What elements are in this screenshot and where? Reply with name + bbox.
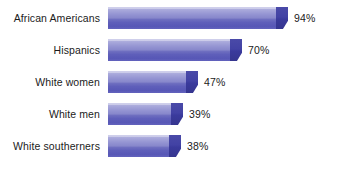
category-label: Hispanics (0, 37, 100, 63)
bar-row: White men39% (0, 101, 337, 127)
category-label: White southerners (0, 133, 100, 159)
bar-end-cap (276, 7, 288, 29)
bar-chart: African Americans94%Hispanics70%White wo… (0, 0, 337, 171)
bar (108, 135, 181, 157)
bar-body (108, 71, 187, 93)
category-label: White women (0, 69, 100, 95)
bar-end-cap (230, 39, 242, 61)
value-label: 47% (204, 69, 225, 95)
bar-body (108, 103, 172, 125)
bar-row: African Americans94% (0, 5, 337, 31)
value-label: 39% (189, 101, 210, 127)
bar-body (108, 39, 231, 61)
bar (108, 103, 183, 125)
bar-body (108, 135, 170, 157)
category-label: White men (0, 101, 100, 127)
bar-row: White women47% (0, 69, 337, 95)
category-label: African Americans (0, 5, 100, 31)
bar-body (108, 7, 277, 29)
bar-end-cap (169, 135, 181, 157)
bar-row: White southerners38% (0, 133, 337, 159)
value-label: 94% (294, 5, 315, 31)
bar (108, 71, 198, 93)
bar-end-cap (171, 103, 183, 125)
value-label: 38% (187, 133, 208, 159)
bar (108, 7, 288, 29)
value-label: 70% (248, 37, 269, 63)
bar-end-cap (186, 71, 198, 93)
bar (108, 39, 242, 61)
bar-row: Hispanics70% (0, 37, 337, 63)
